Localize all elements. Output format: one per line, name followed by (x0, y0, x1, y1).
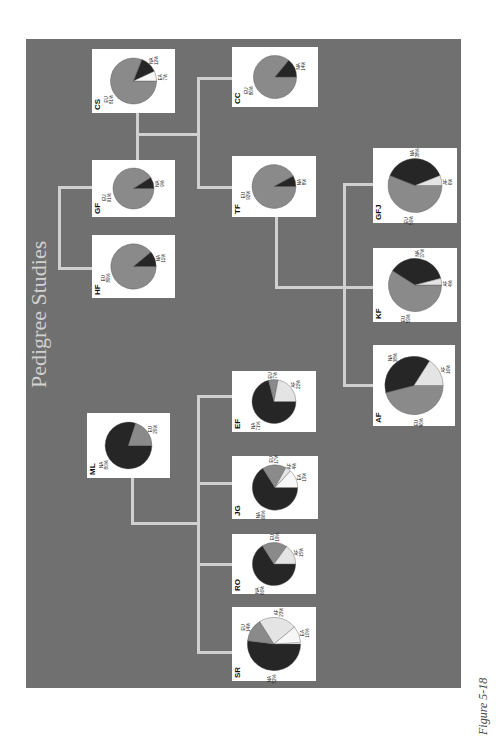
node-name: SR (233, 667, 242, 678)
connector-line (197, 651, 234, 654)
node-name: CS (93, 99, 102, 110)
node-name: GFJ (374, 204, 383, 220)
slice-label: AF 4% (443, 280, 453, 287)
pie-chart (92, 235, 175, 298)
node-name: JG (233, 505, 242, 516)
pie-node-kf: EU 59%NA 37%AF 4%KF (373, 248, 457, 322)
node-name: EF (233, 419, 242, 429)
slice-label: EU 56% (404, 216, 414, 225)
slice-label: NA 66% (255, 586, 265, 595)
slice-label: NA 8% (297, 179, 307, 186)
connector-line (136, 133, 200, 136)
node-name: GF (93, 203, 102, 214)
node-name: ML (88, 463, 97, 475)
pie-chart (232, 534, 316, 594)
connector-line (58, 186, 61, 270)
slice-label: EU 86% (244, 86, 254, 95)
connector-line (58, 267, 94, 270)
pie-chart (373, 345, 455, 426)
slice-label: EU 46% (414, 418, 424, 427)
pie-node-gfj: EU 56%NA 38%AF 6%GFJ (373, 148, 457, 223)
slice-label: EU 20% (148, 425, 158, 434)
node-name: HF (93, 284, 102, 295)
slice-label: AF 23% (274, 608, 284, 617)
connector-line (131, 522, 200, 525)
slice-label: EA 13% (297, 473, 307, 482)
pie-node-gf: EU 91%NA 9%GF (92, 160, 175, 217)
pie-chart (92, 160, 175, 217)
node-name: CC (233, 92, 242, 104)
slice-label: NA 9% (155, 180, 165, 187)
slice-label: NA 12% (149, 56, 159, 65)
slice-label: AF 16% (441, 365, 451, 374)
slice-label: NA 80% (99, 460, 109, 469)
node-name: AF (374, 412, 383, 423)
connector-line (197, 482, 234, 485)
node-name: KF (374, 308, 383, 319)
pie-node-tf: EU 92%NA 8%TF (232, 156, 316, 217)
connector-line (136, 111, 139, 161)
slice-label: EA 10% (300, 629, 310, 638)
slice-label: EU 59% (401, 314, 411, 323)
node-name: TF (233, 204, 242, 214)
connector-line (197, 563, 234, 566)
slice-label: EU 91% (102, 193, 112, 202)
pie-node-ef: NA 71%EU 7%AF 22%EF (232, 371, 316, 432)
pie-node-cs: EU 81%NA 12%EA 7%CS (92, 49, 175, 113)
pie-node-af: EU 46%NA 38%AF 16%AF (373, 345, 455, 426)
connector-line (275, 286, 375, 289)
slice-label: NA 66% (256, 510, 266, 519)
slice-label: EU 17% (269, 455, 279, 464)
slice-label: AF 22% (291, 380, 301, 389)
pie-node-cc: EU 86%NA 14%CC (232, 47, 318, 107)
connector-line (197, 395, 200, 654)
pedigree-figure: Pedigree Studies EU 81%NA 12%EA 7%CSEU 8… (26, 39, 461, 688)
pie-slice-na (247, 641, 300, 671)
slice-label: EU 7% (268, 372, 278, 379)
slice-label: EU 19% (270, 532, 280, 541)
slice-label: EU 89% (101, 274, 111, 283)
pie-chart (232, 156, 316, 217)
slice-label: NA 11% (156, 254, 166, 263)
connector-line (343, 183, 375, 186)
figure-caption: Figure 5-18 (476, 678, 491, 735)
pie-node-sr: NA 52%EU 14%AF 23%EA 10%SR (232, 607, 316, 681)
slice-label: EU 81% (104, 95, 114, 104)
slice-label: AF 6% (443, 179, 453, 186)
pie-node-ro: NA 66%EU 19%AF 15%RO (232, 534, 316, 594)
connector-line (197, 395, 234, 398)
connector-line (197, 77, 234, 80)
connector-line (197, 186, 234, 189)
slice-label: AF 15% (294, 548, 304, 557)
slice-label: NA 14% (296, 62, 306, 71)
pie-chart (232, 47, 318, 107)
node-name: RO (233, 579, 242, 591)
connector-line (131, 476, 134, 525)
pie-chart (373, 148, 457, 223)
pie-chart (232, 371, 316, 432)
slice-label: EU 92% (241, 191, 251, 200)
slice-label: AF 4% (287, 463, 297, 470)
slice-label: NA 38% (410, 148, 420, 157)
connector-line (197, 77, 200, 189)
connector-line (343, 183, 346, 387)
connector-line (58, 186, 94, 189)
connector-line (343, 384, 375, 387)
pie-chart (232, 607, 316, 681)
pie-node-hf: EU 89%NA 11%HF (92, 235, 175, 298)
slice-label: NA 52% (267, 675, 277, 684)
slice-label: NA 38% (388, 353, 398, 362)
slice-label: EU 14% (241, 623, 251, 632)
pie-node-ml: NA 80%EU 20%ML (87, 413, 170, 478)
pie-chart (232, 456, 318, 519)
connector-line (275, 215, 278, 289)
figure-title: Pedigree Studies (26, 241, 52, 388)
pie-node-jg: NA 66%EU 17%AF 4%EA 13%JG (232, 456, 318, 519)
slice-label: NA 37% (415, 249, 425, 258)
slice-label: EA 7% (158, 74, 168, 81)
slice-label: NA 71% (251, 421, 261, 430)
